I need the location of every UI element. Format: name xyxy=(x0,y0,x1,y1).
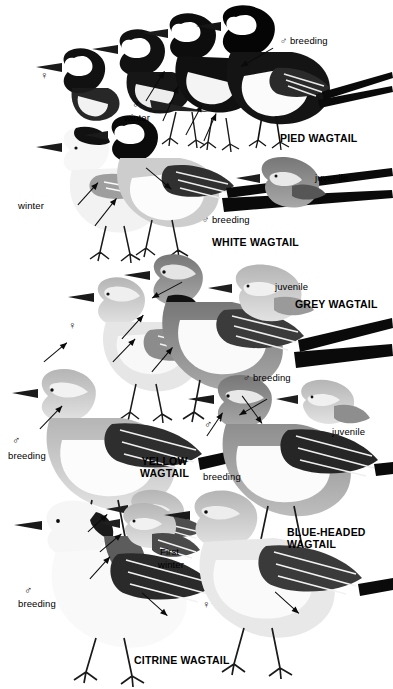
label-citrine-first-winter: winter xyxy=(158,559,184,571)
label-pied-female: ♀ xyxy=(40,70,48,81)
label-yellow-juvenile: juvenile xyxy=(332,426,365,438)
label-pied-winter: winter xyxy=(124,112,150,124)
label-grey-female: ♀ xyxy=(68,320,76,331)
wagtail-identification-plate: ♀ ♂ winter ♂ breeding PIED WAGTAIL winte… xyxy=(0,0,393,689)
species-name-grey-wagtail: GREY WAGTAIL xyxy=(295,299,378,311)
label-citrine-male: ♂ xyxy=(24,585,32,596)
species-name-yellow-wagtail: YELLOWWAGTAIL xyxy=(140,456,189,479)
label-citrine-breeding: breeding xyxy=(18,598,56,610)
label-grey-male-breeding: ♂ breeding xyxy=(243,372,291,384)
species-name-pied-wagtail: PIED WAGTAIL xyxy=(280,133,357,145)
bird-blue-headed-juvenile xyxy=(276,380,370,424)
label-pied-male-winter: ♂ xyxy=(132,99,140,110)
label-grey-juvenile: juvenile xyxy=(275,281,308,293)
label-white-juvenile: juvenile xyxy=(315,172,348,184)
label-citrine-first: First xyxy=(160,546,179,558)
label-blue-male: ♂ xyxy=(204,419,212,430)
species-name-citrine-wagtail: CITRINE WAGTAIL xyxy=(134,655,230,667)
label-blue-breeding: breeding xyxy=(203,471,241,483)
bird-pied-female xyxy=(36,48,120,121)
label-white-winter: winter xyxy=(18,200,44,212)
label-yellow-breeding: breeding xyxy=(8,450,46,462)
label-pied-male-breeding: ♂ breeding xyxy=(280,35,328,47)
label-citrine-female: ♀ xyxy=(202,599,210,610)
label-white-male-breeding: ♂ breeding xyxy=(202,214,250,226)
species-name-white-wagtail: WHITE WAGTAIL xyxy=(212,237,299,249)
species-name-blue-headed-wagtail: BLUE-HEADEDWAGTAIL xyxy=(287,527,366,550)
pied-legs-group xyxy=(162,112,239,152)
label-yellow-male: ♂ xyxy=(12,435,20,446)
